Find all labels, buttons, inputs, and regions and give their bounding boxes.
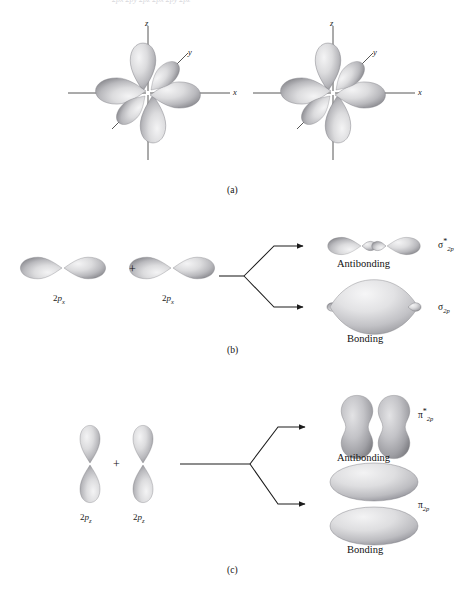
caption-b: (b)	[227, 346, 238, 356]
axis-label-z-left: z	[145, 19, 148, 28]
axis-label-y-left: y	[188, 48, 192, 57]
lobe-right	[64, 257, 106, 279]
panel-b-group	[20, 237, 421, 334]
ellipse-lobe-top	[330, 463, 418, 501]
ellipse-lobe-bottom	[330, 507, 418, 545]
panel-b-antibonding-orbital	[328, 237, 421, 254]
axis-label-x-right: x	[418, 88, 422, 97]
lobe-left	[20, 257, 62, 279]
lobe-outer-right	[387, 237, 420, 254]
panel-c-bonding-orbital	[330, 463, 418, 545]
lobe-right	[173, 257, 215, 279]
state-label-antibonding-c: Antibonding	[337, 453, 390, 464]
mo-label-pi-2p: π2p	[418, 498, 429, 513]
lobe-outer-left	[328, 237, 361, 254]
caption-c: (c)	[227, 566, 238, 576]
orbital-label-2px-right: 2px	[162, 294, 174, 305]
plus-sign-c: +	[113, 458, 120, 470]
panel-c-input-orbital-right	[133, 425, 153, 502]
mo-label-sigma-2p: σ2p	[438, 300, 450, 315]
mo-label-sigma-star-2p: σ*2p	[438, 238, 454, 253]
axis-label-z-right: z	[330, 19, 333, 28]
orbital-label-2pz-left: 2pz	[80, 513, 92, 524]
kidney-lobe-right	[378, 395, 410, 458]
panel-b-input-orbital-right	[129, 257, 214, 279]
lobe-up	[80, 425, 100, 463]
lobe-down	[80, 465, 100, 503]
panel-c-input-orbital-left	[80, 425, 100, 502]
lobe-inner-right	[372, 241, 386, 250]
state-label-antibonding-b: Antibonding	[337, 259, 390, 270]
axis-label-y-right: y	[373, 48, 377, 57]
panel-c-group	[80, 395, 418, 545]
lens-overlap-region	[330, 280, 418, 335]
orbital-label-2pz-right: 2pz	[133, 513, 145, 524]
lobe-down	[133, 465, 153, 503]
state-label-bonding-b: Bonding	[347, 334, 383, 345]
axis-label-x-left: x	[233, 88, 237, 97]
panel-c-antibonding-orbital	[341, 395, 410, 458]
panel-a-right-orbital-set	[253, 26, 415, 160]
lobe-up	[133, 425, 153, 463]
panel-c-fork-connector	[180, 427, 305, 504]
panel-b-input-orbital-left	[20, 257, 105, 279]
state-label-bonding-c: Bonding	[347, 545, 383, 556]
caption-a: (a)	[227, 186, 238, 196]
panel-b-bonding-orbital	[327, 280, 421, 335]
mo-label-pi-star-2p: π*2p	[418, 408, 433, 423]
orbital-label-2px-left: 2px	[53, 294, 65, 305]
plus-sign-b: +	[129, 263, 136, 275]
kidney-lobe-left	[341, 395, 373, 458]
panel-a-group	[68, 26, 415, 160]
panel-a-left-orbital-set	[68, 26, 230, 160]
panel-b-fork-connector	[219, 246, 303, 307]
